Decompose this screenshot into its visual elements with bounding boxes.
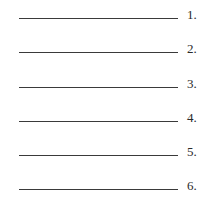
answer-row-6: 6. (0, 175, 213, 195)
answer-number-2: 2. (187, 42, 197, 55)
answer-number-4: 4. (187, 111, 197, 124)
answer-number-5: 5. (187, 145, 197, 158)
answer-number-6: 6. (187, 179, 197, 192)
answer-number-3: 3. (187, 77, 197, 90)
answer-row-1: 1. (0, 4, 213, 24)
answer-blank-5[interactable] (19, 155, 178, 156)
answer-blank-6[interactable] (19, 189, 178, 190)
answer-number-1: 1. (187, 8, 197, 21)
answer-blank-1[interactable] (19, 18, 178, 19)
answer-row-4: 4. (0, 107, 213, 127)
answer-row-2: 2. (0, 38, 213, 58)
answer-blank-2[interactable] (19, 52, 178, 53)
answer-blank-4[interactable] (19, 121, 178, 122)
answer-blank-3[interactable] (19, 87, 178, 88)
answer-row-5: 5. (0, 141, 213, 161)
answer-row-3: 3. (0, 73, 213, 93)
